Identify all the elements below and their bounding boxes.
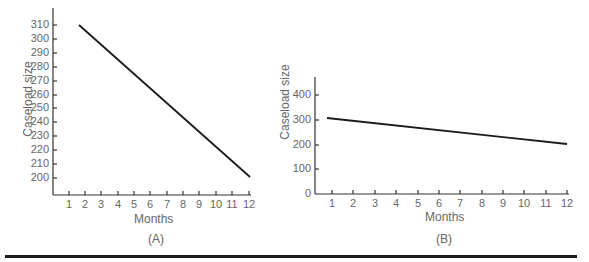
panel-a-ytick: 210 bbox=[19, 157, 49, 169]
bottom-rule-divider bbox=[5, 255, 577, 258]
panel-b-xtick: 6 bbox=[429, 197, 449, 209]
panel-b-xtick: 2 bbox=[343, 197, 363, 209]
panel-b-ytick: 100 bbox=[281, 162, 311, 174]
panel-b-y-axis-label: Caseload size bbox=[278, 62, 292, 142]
panel-b-xtick: 10 bbox=[514, 197, 534, 209]
panel-b-xtick: 12 bbox=[557, 197, 577, 209]
panel-a-x-axis-label: Months bbox=[134, 212, 173, 226]
panel-b-xtick: 11 bbox=[536, 197, 556, 209]
panel-b-x-axis-label: Months bbox=[425, 210, 464, 224]
panel-b-ytick: 300 bbox=[281, 113, 311, 125]
chart-graphics bbox=[0, 0, 589, 262]
panel-a-axes bbox=[53, 8, 251, 195]
panel-a-data-line bbox=[79, 25, 250, 177]
panel-a-ytick: 270 bbox=[19, 74, 49, 86]
panel-a-ytick: 300 bbox=[19, 32, 49, 44]
panel-a-ytick: 230 bbox=[19, 129, 49, 141]
panel-a-ytick: 250 bbox=[19, 101, 49, 113]
panel-b-xtick: 4 bbox=[386, 197, 406, 209]
panel-a-ytick: 220 bbox=[19, 143, 49, 155]
panel-b-xtick: 9 bbox=[493, 197, 513, 209]
panel-b-xtick: 1 bbox=[322, 197, 342, 209]
panel-b-data-line bbox=[327, 118, 567, 144]
panel-b-axes bbox=[315, 77, 569, 194]
panel-b-ytick: 0 bbox=[281, 187, 311, 199]
panel-a-ytick: 200 bbox=[19, 171, 49, 183]
panel-b-ytick: 200 bbox=[281, 138, 311, 150]
panel-a-ytick: 310 bbox=[19, 18, 49, 30]
panel-b-ytick: 400 bbox=[281, 88, 311, 100]
panel-b-xtick: 5 bbox=[408, 197, 428, 209]
panel-a-ytick: 280 bbox=[19, 60, 49, 72]
panel-b-xtick: 8 bbox=[472, 197, 492, 209]
panel-a-caption: (A) bbox=[148, 232, 164, 246]
panel-a-xtick: 12 bbox=[239, 198, 259, 210]
panel-b-xtick: 7 bbox=[450, 197, 470, 209]
panel-a-ytick: 260 bbox=[19, 88, 49, 100]
panel-b-caption: (B) bbox=[436, 232, 452, 246]
panel-a-ytick: 240 bbox=[19, 115, 49, 127]
panel-a-ytick: 290 bbox=[19, 46, 49, 58]
panel-b-xtick: 3 bbox=[365, 197, 385, 209]
